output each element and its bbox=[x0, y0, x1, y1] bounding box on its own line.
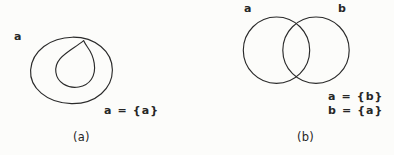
venn-diagram-a bbox=[0, 0, 197, 155]
equation-a-self-membership: a = {a} bbox=[104, 104, 159, 117]
left-circle-shape bbox=[243, 17, 309, 83]
set-label-b-b: b bbox=[338, 2, 346, 15]
equation-b-a-equals-b: a = {b} bbox=[328, 90, 384, 103]
set-label-b-a: a bbox=[244, 2, 252, 15]
right-circle-shape bbox=[283, 17, 349, 83]
equation-b-b-equals-a: b = {a} bbox=[328, 104, 384, 117]
venn-diagram-b bbox=[197, 0, 394, 155]
diagram-panel-a: a a = {a} (a) bbox=[0, 0, 197, 155]
caption-a: (a) bbox=[73, 130, 90, 144]
diagram-panel-b: a b a = {b} b = {a} (b) bbox=[197, 0, 394, 155]
set-label-a: a bbox=[14, 30, 22, 43]
outer-oval-shape bbox=[31, 37, 113, 103]
inner-teardrop-shape bbox=[56, 41, 95, 88]
caption-b: (b) bbox=[297, 130, 314, 144]
figure-root: a a = {a} (a) a b a = {b} b = {a} (b) bbox=[0, 0, 394, 155]
